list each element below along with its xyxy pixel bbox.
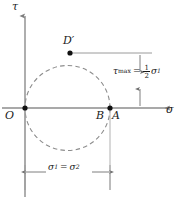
sigma-span-dimension-label: σ1 = σ2 (48, 163, 80, 172)
point-label-d-prime: D′ (63, 35, 74, 46)
one-half-fraction: 1 2 (143, 64, 149, 79)
fraction-numerator: 1 (143, 64, 149, 71)
sigma-span-equals: = (60, 163, 68, 172)
sigma-span-subscript-2: 2 (76, 164, 80, 170)
figure-canvas (0, 0, 183, 204)
point-label-b: B (96, 110, 104, 121)
mohrs-circle-figure: τ σ D′ O B A τmax = 1 2 σ1 σ1 = σ2 (0, 0, 183, 204)
point-label-a: A (112, 110, 120, 121)
sigma-axis-label: σ (166, 104, 174, 115)
tau-max-equals: = (133, 67, 141, 76)
point-marker-O (22, 105, 27, 110)
fraction-denominator: 2 (143, 71, 149, 79)
point-label-o: O (5, 110, 14, 121)
point-marker-D-prime (67, 50, 72, 55)
tau-axis-label: τ (12, 1, 18, 12)
tau-max-value-subscript: 1 (157, 68, 161, 74)
tau-max-subscript: max (118, 68, 131, 74)
sigma-span-subscript-1: 1 (54, 164, 58, 170)
tau-max-dimension-label: τmax = 1 2 σ1 (113, 64, 161, 79)
